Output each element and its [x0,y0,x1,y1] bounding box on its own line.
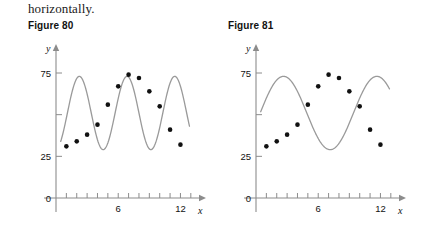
svg-text:25: 25 [40,151,51,162]
figure-81: Figure 81 61202575yx [222,20,412,230]
chart-svg: 61202575yx [22,36,212,226]
svg-text:12: 12 [375,203,386,214]
data-point [295,122,300,127]
data-point [85,132,90,137]
fitted-sinusoid-curve [61,76,190,149]
chart-svg: 61202575yx [222,36,412,226]
data-point [306,102,311,107]
y-axis-label: y [245,43,251,54]
x-axis-label: x [397,205,403,216]
data-point [64,144,69,149]
svg-text:75: 75 [240,68,251,79]
data-point [168,127,173,132]
data-point [264,144,269,149]
arrow-right-icon [399,195,406,201]
data-point [357,104,362,109]
figure-81-plot: 61202575yx [222,36,412,226]
figure-80: Figure 80 61202575yx [22,20,212,230]
body-text: horizontally. [28,1,95,17]
fitted-sinusoid-curve [261,76,390,149]
arrow-up-icon [253,44,259,51]
figure-80-caption: Figure 80 [28,20,73,31]
data-point [326,72,331,77]
data-point [368,127,373,132]
data-point [74,139,79,144]
data-point [378,142,383,147]
arrow-up-icon [53,44,59,51]
data-point [147,89,152,94]
data-point [316,84,321,89]
svg-text:12: 12 [175,203,186,214]
data-point [157,104,162,109]
svg-text:6: 6 [316,203,321,214]
figure-81-caption: Figure 81 [228,20,273,31]
arrow-right-icon [199,195,206,201]
data-point [95,122,100,127]
data-point [126,72,131,77]
data-point [285,132,290,137]
figure-80-plot: 61202575yx [22,36,212,226]
svg-text:0: 0 [46,193,51,204]
data-point [116,84,121,89]
data-point [347,89,352,94]
data-point [337,76,342,81]
y-axis-label: y [45,43,51,54]
svg-text:75: 75 [40,68,51,79]
x-axis-label: x [197,205,203,216]
data-point [274,139,279,144]
data-point [178,142,183,147]
data-point [106,102,111,107]
svg-text:25: 25 [240,151,251,162]
svg-text:6: 6 [116,203,121,214]
svg-text:0: 0 [246,193,251,204]
data-point [137,76,142,81]
